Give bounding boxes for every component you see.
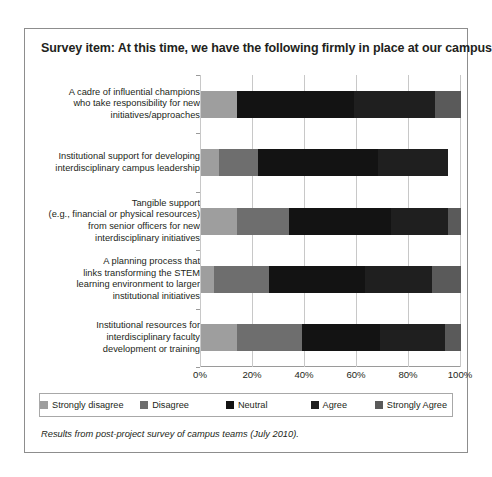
legend-item[interactable]: Strongly Agree [370,400,452,410]
bar-segment [391,208,448,235]
category-label-line: (e.g., financial or physical resources) [31,209,200,221]
bar-segment [365,266,433,293]
x-axis-line [200,366,461,367]
bar-segment [432,266,461,293]
plot-axes [200,75,461,367]
bar-segment [380,324,445,351]
x-tick-label: 80% [398,369,417,380]
y-axis-tick [196,133,200,134]
legend-item[interactable]: Neutral [206,400,288,410]
bar-segment [258,149,378,176]
bar-segment [378,149,448,176]
legend-item[interactable]: Strongly disagree [40,400,124,410]
legend-swatch-icon [40,401,48,409]
bar-segment [269,266,365,293]
bar-segment [201,149,219,176]
legend-label: Neutral [238,400,268,410]
chart-footnote: Results from post-project survey of camp… [41,429,455,439]
chart-page: Survey item: At this time, we have the f… [0,0,492,477]
category-label: A planning process thatlinks transformin… [31,256,200,302]
category-label-line: from senior officers for new [31,221,200,233]
legend-label: Agree [323,400,348,410]
bar-stack [201,91,461,118]
legend-swatch-icon [226,401,234,409]
x-axis-tick-labels: 0%20%40%60%80%100% [200,369,461,385]
y-axis-tick [196,309,200,310]
bar-segment [237,208,289,235]
category-label-line: institutional initiatives [31,291,200,303]
bar-segment [289,208,390,235]
bar-segment [237,324,302,351]
y-axis-category-labels: A cadre of influential championswho take… [31,75,200,367]
category-label-line: who take responsibility for new [31,98,200,110]
legend-swatch-icon [311,401,319,409]
legend-label: Strongly disagree [52,400,124,410]
x-tick-label: 20% [242,369,261,380]
legend-label: Disagree [152,400,189,410]
category-label-line: learning environment to larger [31,279,200,291]
bar-segment [201,208,237,235]
bar-stack [201,324,461,351]
category-label-line: Institutional resources for [31,320,200,332]
category-label-line: Tangible support [31,198,200,210]
category-label-line: Institutional support for developing [31,151,200,163]
x-tick-label: 40% [294,369,313,380]
category-label-line: initiatives/approaches [31,110,200,122]
bar-stack [201,266,461,293]
legend-item[interactable]: Agree [288,400,370,410]
legend-label: Strongly Agree [387,400,447,410]
bar-segment [201,324,237,351]
x-tick-label: 60% [346,369,365,380]
legend-swatch-icon [375,401,383,409]
x-tick-label: 100% [448,369,473,380]
chart-legend: Strongly disagreeDisagreeNeutralAgreeStr… [39,393,453,417]
bar-segment [219,149,258,176]
category-label: Institutional support for developinginte… [31,151,200,174]
y-axis-tick [196,367,200,368]
legend-swatch-icon [140,401,148,409]
bar-segment [302,324,380,351]
category-label-line: A cadre of influential champions [31,87,200,99]
category-label-line: links transforming the STEM [31,268,200,280]
category-label-line: interdisciplinary campus leadership [31,163,200,175]
x-tick-label: 0% [193,369,207,380]
category-label: A cadre of influential championswho take… [31,87,200,122]
legend-item[interactable]: Disagree [124,400,206,410]
category-label-line: development or training [31,344,200,356]
bar-segment [237,91,354,118]
bar-segment [445,324,461,351]
category-label-line: interdisciplinary faculty [31,332,200,344]
bar-segment [435,91,461,118]
bar-segment [354,91,435,118]
chart-title: Survey item: At this time, we have the f… [41,41,455,55]
bar-segment [214,266,269,293]
bar-segment [201,91,237,118]
bar-segment [448,208,461,235]
bar-stack [201,208,461,235]
y-axis-tick [196,250,200,251]
plot-area: A cadre of influential championswho take… [31,75,463,385]
bar-segment [201,266,214,293]
bar-stack [201,149,461,176]
category-label-line: interdisciplinary initiatives [31,233,200,245]
y-axis-tick [196,75,200,76]
category-label: Institutional resources forinterdiscipli… [31,320,200,355]
category-label: Tangible support(e.g., financial or phys… [31,198,200,244]
category-label-line: A planning process that [31,256,200,268]
chart-frame: Survey item: At this time, we have the f… [24,28,468,453]
y-axis-tick [196,192,200,193]
